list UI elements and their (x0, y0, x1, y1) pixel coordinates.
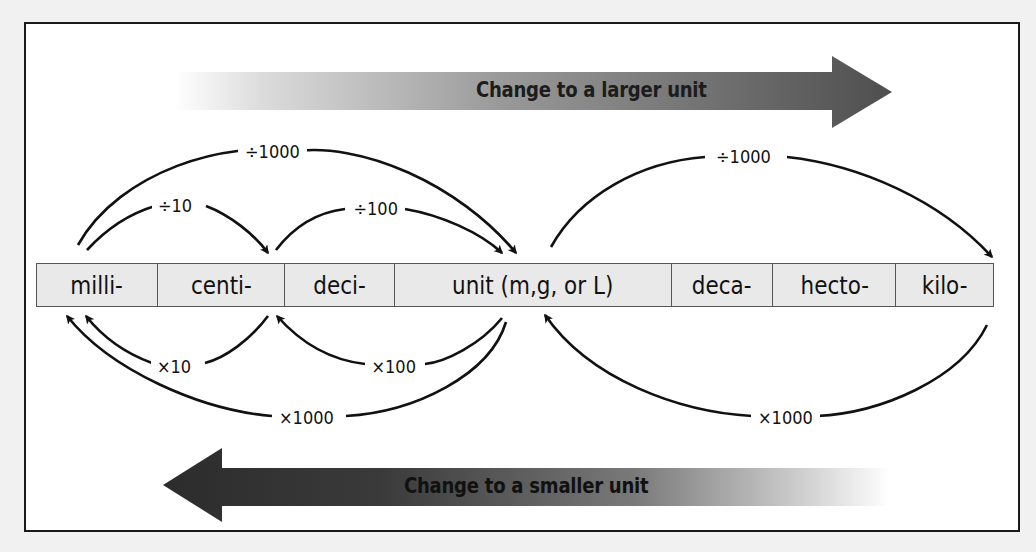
prefix-cell-kilo: kilo- (896, 264, 993, 306)
label-div1000-right: ÷1000 (709, 147, 778, 167)
prefix-label: hecto- (800, 271, 868, 300)
prefix-label: kilo- (922, 271, 968, 300)
arc-milli-to-unit-div1000 (78, 149, 516, 253)
label-x1000-left: ×1000 (272, 408, 341, 428)
label-x1000-right: ×1000 (751, 408, 820, 428)
prefix-label: unit (m,g, or L) (452, 271, 613, 300)
label-x100: ×100 (365, 357, 422, 377)
prefix-cell-deci: deci- (285, 264, 395, 306)
arc-unit-to-kilo-div1000 (551, 157, 992, 257)
larger-unit-label: Change to a larger unit (476, 78, 707, 102)
label-div100: ÷100 (347, 199, 404, 219)
arc-kilo-to-unit-x1000 (545, 315, 987, 416)
arc-unit-to-milli-x1000 (67, 316, 506, 416)
prefix-cell-unit: unit (m,g, or L) (395, 264, 671, 306)
prefix-label: deci- (314, 271, 366, 300)
prefix-bar: milli- centi- deci- unit (m,g, or L) dec… (36, 263, 994, 307)
prefix-cell-centi: centi- (158, 264, 286, 306)
label-div10: ÷10 (152, 196, 198, 216)
prefix-label: centi- (191, 271, 252, 300)
label-x10: ×10 (151, 357, 197, 377)
prefix-cell-deca: deca- (672, 264, 774, 306)
prefix-cell-hecto: hecto- (773, 264, 896, 306)
label-div1000-left: ÷1000 (238, 142, 307, 162)
smaller-unit-label: Change to a smaller unit (404, 474, 648, 498)
prefix-label: deca- (692, 271, 752, 300)
prefix-label: milli- (71, 271, 124, 300)
prefix-cell-milli: milli- (37, 264, 158, 306)
